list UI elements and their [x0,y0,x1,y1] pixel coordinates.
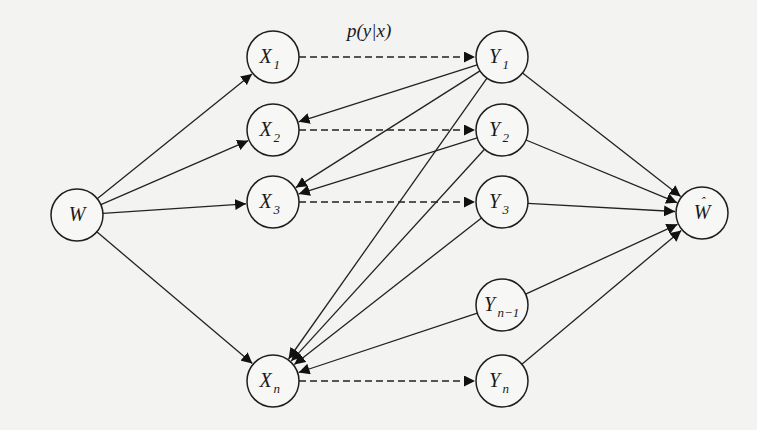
node-subscript: 2 [274,130,281,145]
node-y2: Y2 [476,104,528,156]
node-y1: Y1 [476,31,528,83]
edge-y2-to-what [526,140,677,203]
node-label: W [69,203,88,225]
node-yn-1: Yn−1 [476,279,528,331]
node-label: Y [489,190,502,212]
node-label: Y [489,118,502,140]
node-w: W [51,189,103,241]
edge-y1-to-xn [289,78,487,359]
edge-w-to-xn [97,232,253,364]
feedback-channel-diagram: p(y|x) WX1X2X3XnY1Y2Y3Yn−1YnWˆ [0,0,757,430]
node-x2: X2 [247,104,299,156]
node-what: Wˆ [676,187,728,239]
node-yn: Yn [476,355,528,407]
node-subscript: n [503,381,510,396]
node-subscript: 2 [503,130,510,145]
node-subscript: 3 [273,202,281,217]
node-label: X [258,190,272,212]
edge-y3-to-what [528,203,675,211]
node-subscript: n−1 [498,305,520,320]
node-label: Y [489,45,502,67]
node-subscript: 3 [502,202,510,217]
node-x1: X1 [247,31,299,83]
edge-y2-to-x3 [299,138,477,194]
node-label: X [258,118,272,140]
hat-accent-icon: ˆ [701,194,706,209]
node-label: X [258,369,272,391]
node-x3: X3 [247,176,299,228]
edge-y1-to-x2 [299,65,478,122]
node-subscript: 1 [274,57,281,72]
node-subscript: n [274,381,281,396]
node-label: Y [489,369,502,391]
edges-layer [97,57,682,381]
node-xn: Xn [247,355,299,407]
nodes-layer: WX1X2X3XnY1Y2Y3Yn−1YnWˆ [51,31,728,407]
edge-yn-1-to-what [526,224,678,294]
node-y3: Y3 [476,176,528,228]
edge-y2-to-xn [291,149,484,361]
edge-yn-1-to-xn [299,313,478,372]
node-label: Y [484,293,497,315]
edge-y1-to-x3 [296,71,480,188]
node-label: X [258,45,272,67]
edge-y1-to-what [523,73,681,196]
edge-w-to-x2 [101,141,248,205]
node-subscript: 1 [503,57,510,72]
edge-w-to-x3 [103,204,246,214]
edge-w-to-x1 [97,74,252,199]
channel-label: p(y|x) [345,20,391,42]
edge-yn-to-what [522,230,681,364]
